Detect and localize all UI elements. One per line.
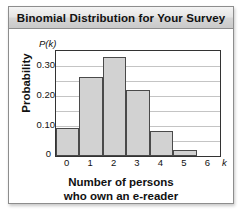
x-tick-label: 6 <box>197 157 217 168</box>
x-tick-label: 2 <box>104 157 124 168</box>
bar <box>56 128 79 157</box>
x-axis-caption: Number of persons who own an e-reader <box>9 175 233 203</box>
x-axis-ticks: 0123456 <box>55 157 219 173</box>
x-axis-symbol-label: k <box>222 157 227 168</box>
x-axis-caption-line-1: Number of persons <box>9 175 233 189</box>
chart-body: Probability P(k) 0.100.200.30 0 0123456 … <box>9 29 233 205</box>
bar <box>173 150 196 156</box>
bar <box>150 131 173 157</box>
y-tick-label: 0.30 <box>29 60 55 70</box>
x-tick-label: 1 <box>80 157 100 168</box>
plot-frame <box>55 50 221 157</box>
bar <box>103 57 126 156</box>
y-tick-label: 0.20 <box>29 90 55 100</box>
x-tick-label: 4 <box>150 157 170 168</box>
bar-series <box>56 51 220 156</box>
x-tick-label: 0 <box>57 157 77 168</box>
x-axis-caption-line-2: who own an e-reader <box>9 189 233 203</box>
chart-title-bar: Binomial Distribution for Your Survey <box>9 7 233 29</box>
page-title: Binomial Distribution for Your Survey <box>17 12 225 24</box>
x-tick-label: 5 <box>174 157 194 168</box>
chart-panel: Binomial Distribution for Your Survey Pr… <box>8 6 234 204</box>
bar <box>79 77 102 157</box>
y-tick-label: 0.10 <box>29 120 55 130</box>
x-tick-label: 3 <box>127 157 147 168</box>
bar <box>126 90 149 156</box>
y-axis-zero-label: 0 <box>39 148 51 159</box>
